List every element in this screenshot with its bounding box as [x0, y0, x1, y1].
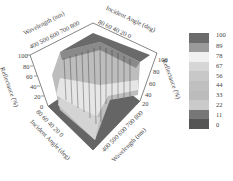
refl-tick-left: 40: [30, 83, 37, 90]
colorbar-tick: 33: [216, 91, 223, 98]
colorbar-tick: 67: [216, 62, 223, 69]
refl-tick-right: 100: [158, 56, 168, 63]
refl-tick-left: 0: [40, 103, 43, 110]
refl-tick-left: 60: [26, 73, 33, 80]
colorbar-tick: 56: [216, 72, 223, 79]
refl-tick-right: 40: [145, 91, 152, 98]
colorbar-tick: 0: [216, 121, 219, 128]
colorbar: [189, 33, 209, 129]
refl-tick-right: 20: [142, 100, 149, 107]
colorbar-tick: 11: [216, 111, 222, 118]
refl-tick-right: 80: [153, 68, 160, 75]
colorbar-tick: 44: [216, 81, 223, 88]
colorbar-tick: 89: [216, 42, 223, 49]
colorbar-tick: 100: [216, 31, 226, 38]
refl-tick-left: 20: [34, 93, 41, 100]
colorbar-tick: 78: [216, 52, 223, 59]
refl-tick-right: 60: [149, 80, 156, 87]
colorbar-tick: 22: [216, 101, 223, 108]
refl-tick-left: 80: [23, 63, 30, 70]
refl-tick-left: 100: [18, 52, 28, 59]
